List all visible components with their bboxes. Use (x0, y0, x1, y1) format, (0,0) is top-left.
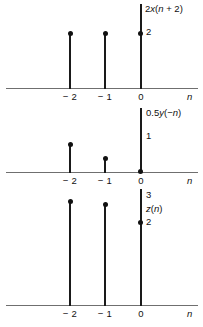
stem-plot-figure: − 2 − 1 0 n 2x(n + 2) 2 − 2 − 1 0 n 0.5y… (0, 0, 203, 327)
ticklabel-0-plot1: 0 (128, 91, 154, 102)
x-axis-name-plot2: n (187, 175, 192, 186)
stem-head-n-0-plot1 (138, 31, 143, 36)
stem-n-minus-1-plot3 (104, 204, 106, 305)
stem-head-n-minus-2-plot1 (68, 31, 73, 36)
stem-head-n-minus-1-plot2 (103, 156, 108, 161)
value-label-plot1: 2 (146, 26, 151, 37)
tick-minus-2-plot2 (69, 165, 71, 173)
tick-0-plot3 (140, 298, 142, 306)
signal-label-plot2: 0.5y(−n) (146, 107, 181, 118)
tick-minus-2-plot1 (69, 81, 71, 89)
y-axis-plot3 (140, 189, 142, 305)
ticklabel-minus-1-plot2: − 1 (92, 175, 118, 186)
stem-n-minus-2-plot3 (69, 201, 71, 305)
stem-head-n-minus-2-plot2 (68, 142, 73, 147)
value-label-plot3: 2 (146, 216, 151, 227)
x-axis-name-plot1: n (187, 91, 192, 102)
signal-label-plot1: 2x(n + 2) (145, 3, 183, 14)
ticklabel-minus-2-plot3: − 2 (57, 308, 83, 319)
x-axis-plot3 (6, 305, 198, 306)
ticklabel-0-plot2: 0 (128, 175, 154, 186)
tick-minus-1-plot1 (104, 81, 106, 89)
stem-n-minus-2-plot1 (69, 33, 71, 88)
stem-head-n-minus-2-plot3 (68, 199, 73, 204)
x-axis-name-plot3: n (187, 308, 192, 319)
ticklabel-0-plot3: 0 (128, 308, 154, 319)
ticklabel-minus-2-plot2: − 2 (57, 175, 83, 186)
stem-head-n-minus-1-plot3 (103, 202, 108, 207)
stem-head-n-0-plot3 (138, 220, 143, 225)
ticklabel-minus-1-plot1: − 1 (92, 91, 118, 102)
signal-label-plot3: z(n) (146, 203, 162, 214)
x-axis-plot2 (6, 172, 198, 173)
y-axis-plot2 (140, 108, 142, 172)
value-label-plot2: 1 (146, 130, 151, 141)
x-axis-plot1 (6, 88, 198, 89)
ticklabel-minus-1-plot3: − 1 (92, 308, 118, 319)
y-axis-plot1 (140, 4, 142, 88)
tick-0-plot1 (140, 81, 142, 89)
tick-minus-1-plot3 (104, 298, 106, 306)
tick-minus-1-plot2 (104, 165, 106, 173)
stem-head-n-minus-1-plot1 (103, 31, 108, 36)
stem-n-minus-1-plot1 (104, 33, 106, 88)
stem-head-n-0-plot2 (138, 169, 143, 174)
top-value-label-plot3: 3 (146, 189, 151, 200)
tick-minus-2-plot3 (69, 298, 71, 306)
ticklabel-minus-2-plot1: − 2 (57, 91, 83, 102)
